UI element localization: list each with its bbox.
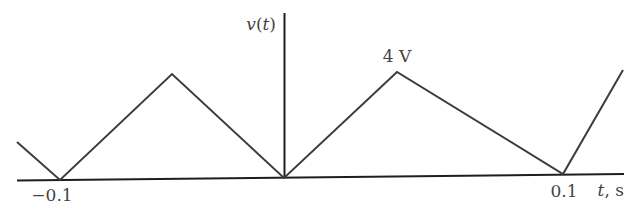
tick-label-neg-0-1: −0.1 <box>31 185 72 205</box>
diagram-canvas: v(t) 4 V −0.1 0.1 t, s <box>0 0 644 215</box>
y-axis-label: v(t) <box>246 14 276 34</box>
x-axis-label: t, s <box>598 180 624 200</box>
triangular-waveform-diagram: v(t) 4 V −0.1 0.1 t, s <box>0 0 644 215</box>
peak-amplitude-label: 4 V <box>383 46 412 66</box>
tick-label-0-1: 0.1 <box>550 181 577 201</box>
t-axis <box>17 174 624 181</box>
triangular-waveform <box>17 70 623 180</box>
